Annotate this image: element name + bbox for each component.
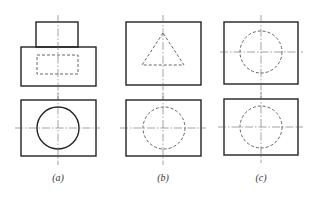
panel-b-front-view (126, 15, 201, 100)
panel-b-label: (b) (157, 172, 169, 184)
panel-a: (a) (15, 15, 100, 184)
panel-c-front-view (220, 15, 303, 100)
panel-c: (c) (218, 15, 303, 184)
hidden-rectangle (37, 55, 78, 74)
panel-b-top-view (120, 93, 206, 165)
upper-block-outline (36, 22, 78, 47)
three-view-drawings: .solid { stroke: #222; stroke-width: 1.4… (0, 0, 320, 207)
panel-c-top-view (218, 92, 303, 163)
panel-a-front-view (21, 15, 96, 100)
rectangle-outline (126, 22, 201, 85)
panel-b: (b) (120, 15, 206, 184)
lower-block-outline (21, 47, 96, 86)
panel-a-label: (a) (52, 172, 64, 184)
panel-c-label: (c) (255, 172, 267, 184)
panel-a-top-view (15, 93, 100, 165)
